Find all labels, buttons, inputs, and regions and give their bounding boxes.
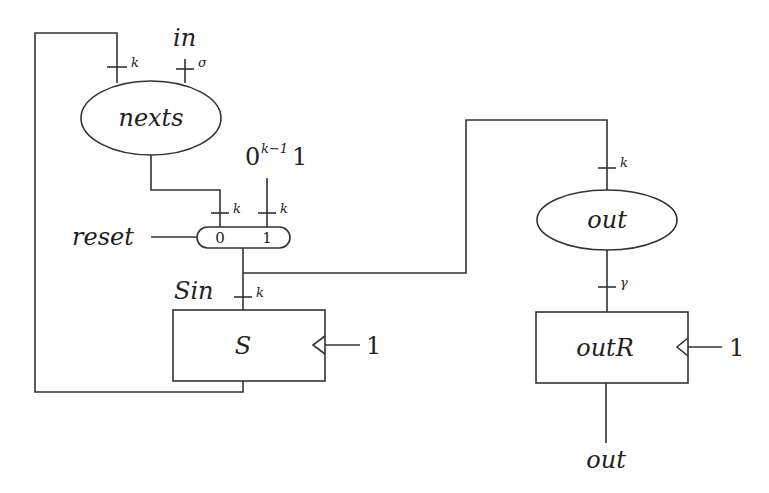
- outr-register-label: outR: [576, 334, 634, 362]
- bus-width-feedback: k: [131, 55, 139, 70]
- mux-input-1-label: 1: [262, 229, 272, 247]
- output-label-out: out: [586, 446, 626, 474]
- bus-width-in: σ: [198, 55, 208, 70]
- s-clock-label: 1: [366, 332, 381, 360]
- const-tail: 1: [292, 143, 307, 171]
- sin-label: Sin: [174, 277, 214, 305]
- mux-input-0-label: 0: [215, 229, 225, 247]
- bus-width-mux1: k: [280, 201, 288, 216]
- nexts-to-mux-wire: [151, 155, 220, 228]
- out-function-label: out: [587, 206, 627, 234]
- bus-width-mux0: k: [233, 201, 241, 216]
- reset-label: reset: [72, 223, 134, 251]
- multiplexer: [197, 227, 290, 248]
- input-label-in: in: [173, 24, 196, 52]
- const-base: 0: [245, 143, 260, 171]
- bus-width-sin: k: [256, 285, 264, 300]
- outr-clock-label: 1: [729, 334, 744, 362]
- circuit-diagram: k in σ nexts k 0 k−1 1 k reset 0 1 Sin k…: [0, 0, 769, 493]
- bus-width-gamma: γ: [620, 275, 628, 290]
- nexts-label: nexts: [118, 104, 183, 132]
- s-register-label: S: [235, 332, 251, 360]
- bus-width-out-in: k: [620, 155, 628, 170]
- const-exponent: k−1: [261, 141, 288, 156]
